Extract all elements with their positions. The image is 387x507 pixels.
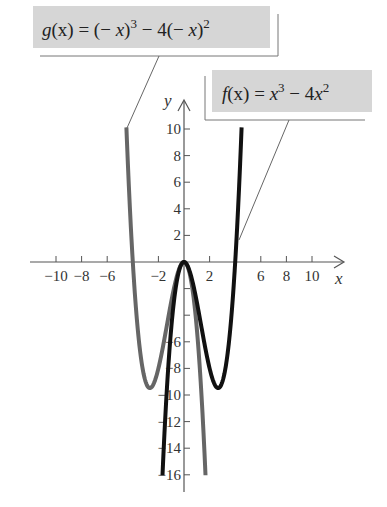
y-tick-label: −14: [158, 440, 182, 456]
y-tick-label: −12: [158, 414, 181, 430]
x-tick-label: 6: [257, 268, 265, 284]
x-tick-label: 2: [206, 268, 214, 284]
f-label-callout: f(x) = x3 − 4x2: [205, 70, 372, 240]
y-tick-label: −10: [158, 387, 181, 403]
g-connector-line: [127, 56, 159, 128]
f-label-text: f(x) = x3 − 4x2: [222, 80, 329, 105]
y-tick-label: 2: [174, 227, 182, 243]
g-label-text: g(x) = (− x)3 − 4(− x)2: [42, 16, 210, 41]
x-tick-label: −2: [150, 268, 166, 284]
y-tick-label: 10: [166, 121, 181, 137]
x-tick-label: 10: [305, 268, 320, 284]
x-tick-label: −10: [44, 268, 67, 284]
y-tick-label: 8: [174, 148, 182, 164]
f-connector-line: [239, 120, 289, 240]
axes: x y −10−8−6−226810 108642−6−8−10−12−14−1…: [30, 91, 344, 492]
x-tick-label: −6: [99, 268, 115, 284]
x-ticks: −10−8−6−226810: [44, 256, 319, 284]
x-tick-label: −8: [74, 268, 90, 284]
y-tick-label: −6: [165, 334, 181, 350]
y-axis-label: y: [162, 91, 172, 110]
x-axis-label: x: [334, 269, 343, 288]
y-tick-label: 4: [174, 201, 182, 217]
x-tick-label: 8: [283, 268, 291, 284]
function-graph: g(x) = (− x)3 − 4(− x)2 f(x) = x3 − 4x2 …: [0, 0, 387, 507]
y-tick-label: 6: [174, 174, 182, 190]
